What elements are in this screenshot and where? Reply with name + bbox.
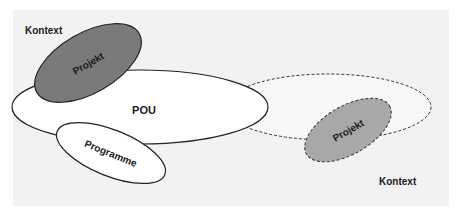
context-diagram: POU Projekt Programme Projekt Kontext Ko… bbox=[0, 0, 458, 216]
context-label-bottom-right: Kontext bbox=[379, 176, 417, 187]
context-label-top-left: Kontext bbox=[25, 25, 63, 36]
pou-label: POU bbox=[132, 104, 156, 116]
